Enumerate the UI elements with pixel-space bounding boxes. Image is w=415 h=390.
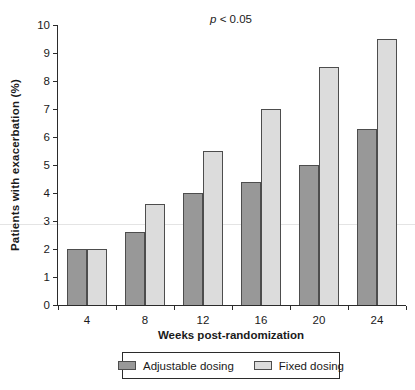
y-axis-tick-label: 9 <box>27 47 50 59</box>
bar-fixed-week-8 <box>145 204 165 305</box>
bar-chart-figure: p < 0.05 Patients with exacerbation (%) … <box>0 0 415 390</box>
p-value-annotation: p < 0.05 <box>57 13 405 25</box>
x-axis-tick <box>232 306 233 310</box>
p-value-comparison: < 0.05 <box>216 13 252 25</box>
legend-entry-fixed-dosing: Fixed dosing <box>254 360 344 372</box>
x-axis-tick-label: 4 <box>67 314 107 326</box>
y-axis-tick <box>53 25 57 26</box>
legend: Adjustable dosing Fixed dosing <box>122 352 340 379</box>
x-axis-title: Weeks post-randomization <box>57 329 405 341</box>
x-axis-tick-label: 8 <box>125 314 165 326</box>
y-axis-tick-label: 7 <box>27 103 50 115</box>
y-axis-tick <box>53 53 57 54</box>
x-axis-tick-label: 24 <box>357 314 397 326</box>
bar-fixed-week-16 <box>261 109 281 305</box>
bar-fixed-week-12 <box>203 151 223 305</box>
y-axis-tick <box>53 193 57 194</box>
y-axis-tick <box>53 249 57 250</box>
bar-adjustable-week-8 <box>125 232 145 305</box>
plot-area: 0123456789104812162024 <box>57 25 406 306</box>
bar-fixed-week-24 <box>377 39 397 305</box>
y-axis-tick-label: 10 <box>27 19 50 31</box>
x-axis-tick <box>348 306 349 310</box>
y-axis-tick-label: 0 <box>27 299 50 311</box>
y-axis-tick <box>53 277 57 278</box>
x-axis-tick-label: 20 <box>299 314 339 326</box>
y-axis-tick-label: 4 <box>27 187 50 199</box>
bar-fixed-week-20 <box>319 67 339 305</box>
y-axis-tick <box>53 165 57 166</box>
x-axis-tick <box>290 306 291 310</box>
y-axis-tick <box>53 221 57 222</box>
legend-label-adjustable-dosing: Adjustable dosing <box>143 360 234 372</box>
y-axis-tick <box>53 137 57 138</box>
x-axis-tick <box>58 306 59 310</box>
x-axis-tick <box>174 306 175 310</box>
x-axis-tick-label: 12 <box>183 314 223 326</box>
x-axis-tick-label: 16 <box>241 314 281 326</box>
y-axis-tick <box>53 81 57 82</box>
y-axis-tick-label: 2 <box>27 243 50 255</box>
bar-fixed-week-4 <box>87 249 107 305</box>
legend-entry-adjustable-dosing: Adjustable dosing <box>118 360 234 372</box>
y-axis-tick-label: 3 <box>27 215 50 227</box>
legend-swatch-adjustable-dosing <box>118 361 136 370</box>
y-axis-tick-label: 8 <box>27 75 50 87</box>
y-axis-tick-label: 5 <box>27 159 50 171</box>
y-axis-tick-label: 6 <box>27 131 50 143</box>
y-axis-tick-label: 1 <box>27 271 50 283</box>
bar-adjustable-week-24 <box>357 129 377 305</box>
x-axis-tick <box>406 306 407 310</box>
legend-label-fixed-dosing: Fixed dosing <box>279 360 344 372</box>
bar-adjustable-week-4 <box>67 249 87 305</box>
x-axis-tick <box>116 306 117 310</box>
legend-swatch-fixed-dosing <box>254 361 272 370</box>
bar-adjustable-week-12 <box>183 193 203 305</box>
bar-adjustable-week-20 <box>299 165 319 305</box>
bar-adjustable-week-16 <box>241 182 261 305</box>
y-axis-tick <box>53 305 57 306</box>
y-axis-tick <box>53 109 57 110</box>
y-axis-title: Patients with exacerbation (%) <box>9 79 21 251</box>
